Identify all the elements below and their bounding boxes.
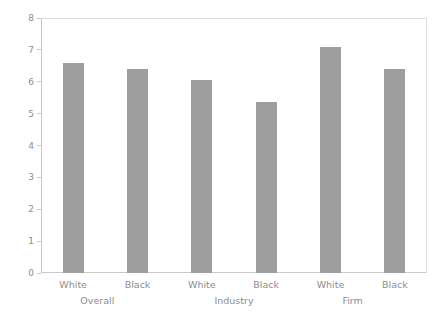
bar <box>320 47 341 273</box>
x-axis-tick-label: White <box>59 279 87 290</box>
y-axis-tick-label: 3 <box>28 171 34 183</box>
y-axis-tick-label: 5 <box>28 108 34 120</box>
x-axis-group-label: Firm <box>342 295 362 306</box>
x-axis-tick-label: Black <box>125 279 151 290</box>
x-axis-group-label: Overall <box>80 295 114 306</box>
y-axis-tick-label: 8 <box>28 12 34 24</box>
x-axis-tick-label: Black <box>253 279 279 290</box>
y-axis-tick-label: 4 <box>28 140 34 152</box>
bar <box>63 63 84 273</box>
y-axis-tick-label: 2 <box>28 203 34 215</box>
x-axis-tick-label: White <box>317 279 345 290</box>
x-axis-tick-label: White <box>188 279 216 290</box>
bar <box>256 102 277 273</box>
y-axis: 012345678 <box>0 0 41 318</box>
bars-layer <box>41 18 427 273</box>
bar <box>191 80 212 273</box>
y-axis-tick-label: 6 <box>28 76 34 88</box>
bar <box>127 69 148 273</box>
y-axis-tick-label: 7 <box>28 44 34 56</box>
bar-chart: 012345678 WhiteBlackWhiteBlackWhiteBlack… <box>0 0 443 318</box>
x-axis-tick-label: Black <box>382 279 408 290</box>
x-axis: WhiteBlackWhiteBlackWhiteBlackOverallInd… <box>0 273 443 318</box>
bar <box>384 69 405 273</box>
y-axis-tick-label: 1 <box>28 235 34 247</box>
x-axis-group-label: Industry <box>214 295 253 306</box>
